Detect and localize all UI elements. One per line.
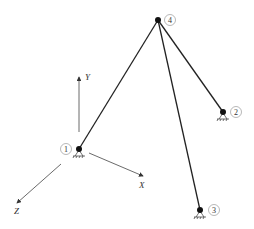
member-4-1 — [79, 20, 158, 149]
truss-diagram: Y X Z 1 2 3 4 — [0, 0, 254, 229]
node-label-4: 4 — [168, 16, 172, 25]
x-axis-label: X — [138, 180, 145, 190]
members — [79, 20, 223, 210]
node-label-1: 1 — [64, 145, 68, 154]
z-axis-arrow — [17, 164, 61, 203]
node-3 — [197, 207, 203, 213]
coordinate-axes: Y X Z — [14, 72, 145, 216]
node-2 — [220, 109, 226, 115]
node-label-2: 2 — [234, 108, 238, 117]
supports — [73, 113, 229, 219]
node-labels: 1 2 3 4 — [61, 15, 242, 216]
y-axis-label: Y — [85, 72, 91, 82]
x-axis-arrow — [89, 153, 143, 176]
node-1 — [76, 146, 82, 152]
node-label-3: 3 — [212, 206, 216, 215]
z-axis-label: Z — [14, 206, 20, 216]
member-4-3 — [158, 20, 200, 210]
nodes — [76, 17, 226, 213]
node-4 — [155, 17, 161, 23]
